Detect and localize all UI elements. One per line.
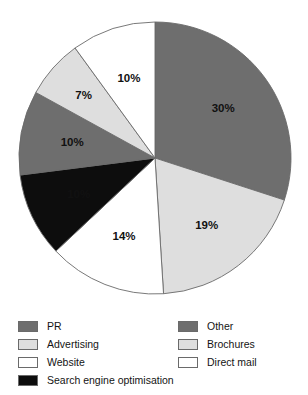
legend-swatch-icon bbox=[178, 321, 198, 332]
legend-item-label: Brochures bbox=[207, 339, 255, 350]
legend-item-label: Advertising bbox=[47, 339, 99, 350]
chart-legend: PRAdvertisingWebsiteSearch engine optimi… bbox=[0, 318, 308, 392]
pie-data-label: 19% bbox=[195, 219, 218, 231]
legend-item-label: Website bbox=[47, 357, 85, 368]
legend-swatch-icon bbox=[18, 321, 38, 332]
legend-item[interactable]: Brochures bbox=[178, 336, 257, 353]
pie-slice-group bbox=[19, 22, 291, 294]
legend-item-label: Search engine optimisation bbox=[47, 375, 174, 386]
pie-data-label: 10% bbox=[61, 136, 84, 148]
pie-data-label: 10% bbox=[67, 188, 90, 200]
legend-swatch-icon bbox=[178, 339, 198, 350]
legend-item[interactable]: PR bbox=[18, 318, 174, 335]
legend-item-label: Other bbox=[207, 321, 233, 332]
pie-chart-figure: 30%19%14%10%10%7%10% PRAdvertisingWebsit… bbox=[0, 0, 308, 395]
legend-item[interactable]: Direct mail bbox=[178, 354, 257, 371]
pie-data-label: 7% bbox=[75, 89, 92, 101]
legend-item[interactable]: Website bbox=[18, 354, 174, 371]
pie-data-label: 10% bbox=[117, 72, 140, 84]
pie-chart-plot-area: 30%19%14%10%10%7%10% bbox=[0, 0, 308, 310]
legend-swatch-icon bbox=[18, 375, 38, 386]
legend-swatch-icon bbox=[18, 339, 38, 350]
legend-swatch-icon bbox=[178, 357, 198, 368]
legend-swatch-icon bbox=[18, 357, 38, 368]
pie-chart-svg: 30%19%14%10%10%7%10% bbox=[0, 0, 308, 310]
legend-column-left: PRAdvertisingWebsiteSearch engine optimi… bbox=[18, 318, 174, 390]
legend-item[interactable]: Search engine optimisation bbox=[18, 372, 174, 389]
legend-item-label: Direct mail bbox=[207, 357, 257, 368]
legend-item[interactable]: Advertising bbox=[18, 336, 174, 353]
pie-data-label: 30% bbox=[212, 102, 235, 114]
legend-item[interactable]: Other bbox=[178, 318, 257, 335]
pie-data-label: 14% bbox=[112, 230, 135, 242]
legend-column-right: OtherBrochuresDirect mail bbox=[178, 318, 257, 372]
legend-item-label: PR bbox=[47, 321, 62, 332]
